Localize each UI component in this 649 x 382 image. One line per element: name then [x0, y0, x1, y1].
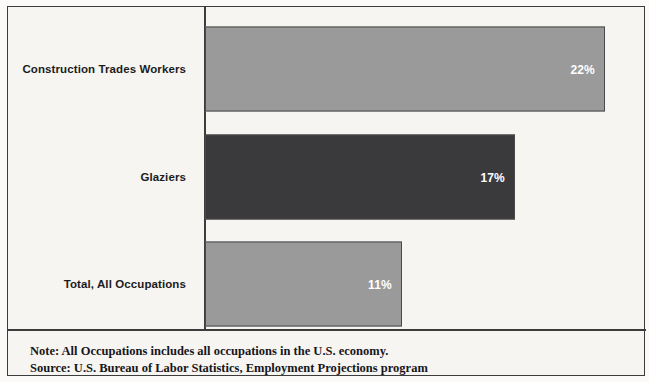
- chart-frame: Construction Trades Workers 22% Glaziers…: [7, 6, 645, 376]
- footnote-note: Note: All Occupations includes all occup…: [30, 343, 644, 360]
- plot-baseline: [8, 329, 646, 331]
- bar[interactable]: 22%: [205, 27, 605, 112]
- footnote-block: Note: All Occupations includes all occup…: [8, 332, 644, 377]
- bar-category-label: Construction Trades Workers: [0, 63, 186, 75]
- chart-figure: Construction Trades Workers 22% Glaziers…: [0, 0, 649, 382]
- footnote-source: Source: U.S. Bureau of Labor Statistics,…: [30, 360, 644, 377]
- bar-value-label: 11%: [368, 277, 392, 291]
- bar-category-label: Total, All Occupations: [0, 278, 186, 290]
- bar-category-label: Glaziers: [0, 171, 186, 183]
- bar-value-label: 22%: [570, 62, 595, 76]
- plot-area: Construction Trades Workers 22% Glaziers…: [8, 7, 644, 330]
- bar[interactable]: 17%: [205, 135, 515, 220]
- bar[interactable]: 11%: [205, 242, 402, 327]
- bar-value-label: 17%: [480, 170, 505, 184]
